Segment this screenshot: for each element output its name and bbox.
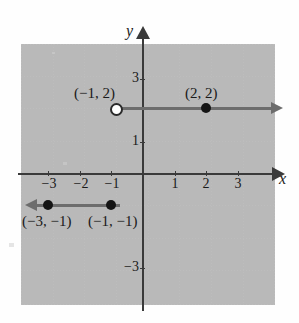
grid-line-horizontal: [21, 44, 275, 45]
scan-speck: [63, 162, 67, 165]
grid-line-horizontal: [21, 141, 275, 142]
y-axis-label: y: [126, 22, 133, 40]
point-label--1-2: (−1, 2): [74, 85, 115, 102]
lower-ray-arrow-icon: [25, 199, 37, 211]
x-tick-label-3: 3: [231, 176, 245, 192]
y-tick-mark: [140, 142, 145, 143]
point-label--3--1: (−3, −1): [22, 213, 71, 230]
scan-speck: [52, 52, 55, 54]
x-axis-label: x: [279, 170, 286, 188]
closed-point-marker-2-2: [201, 103, 211, 113]
closed-point-marker--1--1: [106, 200, 116, 210]
grid-line-horizontal: [21, 238, 275, 239]
open-point-marker--1-2: [110, 103, 123, 116]
x-tick-label--2: −2: [70, 176, 92, 192]
closed-point-marker--3--1: [43, 200, 53, 210]
graph-figure: x y −3 −2 −1 1 2 3 3 1 −3 (−1, 2) (2, 2)…: [0, 0, 299, 323]
point-label-2-2: (2, 2): [185, 85, 218, 102]
upper-ray-arrow-icon: [271, 102, 283, 114]
x-tick-label--3: −3: [38, 176, 60, 192]
x-tick-label-1: 1: [168, 176, 182, 192]
y-tick-label--3: −3: [113, 259, 139, 275]
y-axis: [142, 34, 144, 311]
grid-line-horizontal: [21, 270, 275, 271]
x-tick-label-2: 2: [199, 176, 213, 192]
scan-speck: [9, 243, 14, 247]
y-axis-arrow-icon: [136, 26, 150, 39]
y-tick-mark: [140, 79, 145, 80]
grid-line-horizontal: [21, 304, 275, 305]
y-tick-mark: [140, 268, 145, 269]
upper-ray-line: [118, 107, 273, 110]
x-tick-label--1: −1: [101, 176, 123, 192]
y-tick-label-3: 3: [123, 70, 139, 86]
grid-line-horizontal: [21, 76, 275, 77]
point-label--1--1: (−1, −1): [88, 213, 137, 230]
y-tick-label-1: 1: [123, 133, 139, 149]
